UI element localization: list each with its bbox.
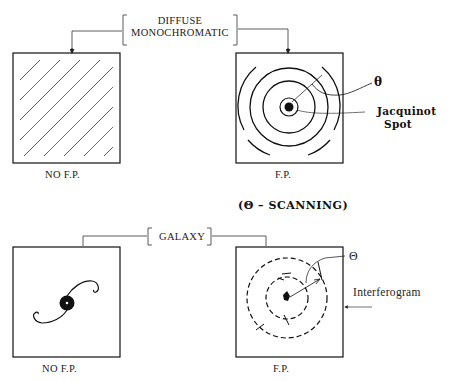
scanning-note: (Θ – SCANNING): [238, 199, 348, 212]
top-right-caption: F.P.: [275, 169, 291, 180]
bottom-left-caption: NO F.P.: [42, 363, 77, 374]
source-label-line2: MONOCHROMATIC: [126, 27, 234, 39]
fp-diffuse-box: [236, 53, 372, 163]
jacquinot-line2: Spot: [377, 118, 436, 131]
jacquinot-line1: Jacquinot: [377, 105, 436, 118]
source-label-line1: DIFFUSE: [126, 15, 234, 27]
diagram-canvas: [0, 0, 454, 381]
top-left-caption: NO F.P.: [45, 169, 80, 180]
no-fp-diffuse-box: [0, 20, 200, 240]
jacquinot-spot-label: Jacquinot Spot: [377, 105, 436, 131]
interferogram-label: Interferogram: [353, 286, 421, 298]
theta-label-bottom: Θ: [349, 249, 358, 264]
bottom-right-caption: F.P.: [273, 363, 289, 374]
fp-galaxy-box: [236, 247, 345, 357]
no-fp-galaxy-box: [13, 247, 120, 357]
source-label-diffuse: DIFFUSE MONOCHROMATIC: [126, 15, 234, 39]
theta-label-top: θ: [374, 75, 382, 89]
source-label-galaxy: GALAXY: [159, 231, 205, 242]
